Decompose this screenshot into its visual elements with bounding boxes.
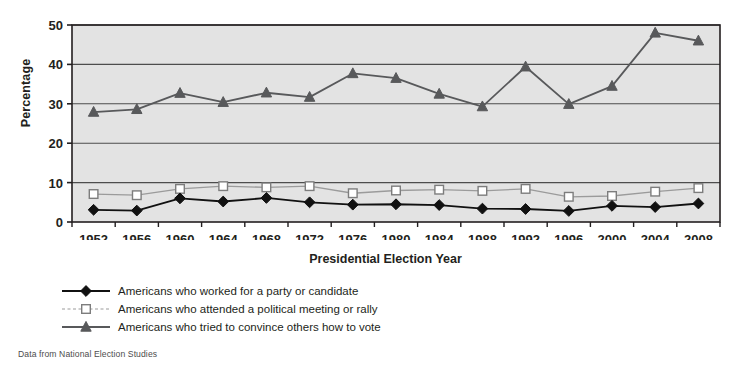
svg-text:30: 30: [49, 97, 63, 112]
chart-legend: Americans who worked for a party or cand…: [60, 282, 381, 336]
svg-text:1960: 1960: [166, 232, 195, 240]
svg-text:1956: 1956: [122, 232, 151, 240]
legend-item-0: Americans who worked for a party or cand…: [60, 282, 381, 300]
svg-text:2004: 2004: [641, 232, 671, 240]
svg-text:1988: 1988: [468, 232, 497, 240]
diamond-filled-marker: [60, 282, 112, 300]
svg-text:1972: 1972: [295, 232, 324, 240]
svg-text:1964: 1964: [209, 232, 239, 240]
square-open-marker: [60, 300, 112, 318]
line-chart-svg: 01020304050 1952195619601964196819721976…: [0, 0, 747, 240]
svg-text:1980: 1980: [382, 232, 411, 240]
legend-item-2: Americans who tried to convince others h…: [60, 318, 381, 336]
figure-election-participation: 01020304050 1952195619601964196819721976…: [0, 0, 747, 367]
y-tick-labels: 01020304050: [49, 18, 72, 230]
svg-text:1984: 1984: [425, 232, 455, 240]
svg-text:1992: 1992: [511, 232, 540, 240]
svg-text:50: 50: [49, 18, 63, 33]
legend-item-1: Americans who attended a political meeti…: [60, 300, 381, 318]
svg-text:2008: 2008: [684, 232, 713, 240]
svg-text:10: 10: [49, 176, 63, 191]
svg-text:20: 20: [49, 136, 63, 151]
legend-label-0: Americans who worked for a party or cand…: [112, 285, 358, 297]
svg-text:0: 0: [56, 215, 63, 230]
triangle-filled-marker: [60, 318, 112, 336]
svg-text:1968: 1968: [252, 232, 281, 240]
svg-text:1952: 1952: [79, 232, 108, 240]
chart-plot-area: 01020304050 1952195619601964196819721976…: [0, 0, 747, 240]
x-axis-title: Presidential Election Year: [0, 252, 747, 266]
x-tick-labels: 1952195619601964196819721976198019841988…: [79, 232, 713, 240]
svg-text:2000: 2000: [598, 232, 627, 240]
source-note: Data from National Election Studies: [18, 349, 157, 359]
legend-label-2: Americans who tried to convince others h…: [112, 321, 381, 333]
x-axis-title-text: Presidential Election Year: [285, 252, 462, 266]
svg-text:40: 40: [49, 57, 63, 72]
legend-label-1: Americans who attended a political meeti…: [112, 303, 378, 315]
svg-text:1996: 1996: [554, 232, 583, 240]
y-axis-title: Percentage: [19, 23, 33, 163]
svg-text:1976: 1976: [338, 232, 367, 240]
